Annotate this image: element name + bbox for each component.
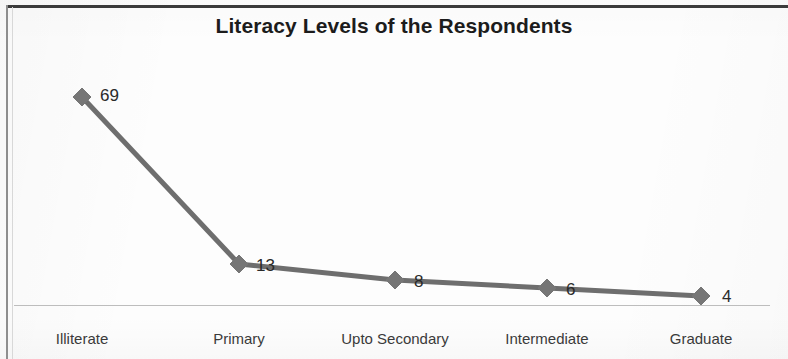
category-axis-label: Illiterate [56, 330, 109, 347]
data-value-label: 6 [566, 280, 575, 300]
category-axis-label: Intermediate [505, 330, 588, 347]
data-value-label: 4 [722, 287, 731, 307]
data-point-markers [73, 88, 710, 305]
data-point-marker[interactable] [538, 279, 556, 297]
chart-plot-area: Literacy Levels of the Respondents 69138… [0, 0, 788, 359]
category-axis-label: Upto Secondary [341, 330, 449, 347]
line-series-path [82, 97, 701, 296]
category-axis-label: Graduate [670, 330, 733, 347]
line-series-svg [0, 0, 788, 359]
data-point-marker[interactable] [386, 271, 404, 289]
data-value-label: 8 [414, 272, 423, 292]
data-point-marker[interactable] [692, 287, 710, 305]
category-axis-label: Primary [213, 330, 265, 347]
data-value-label: 69 [100, 86, 119, 106]
chart-page: Literacy Levels of the Respondents 69138… [0, 0, 788, 359]
data-value-label: 13 [256, 256, 275, 276]
